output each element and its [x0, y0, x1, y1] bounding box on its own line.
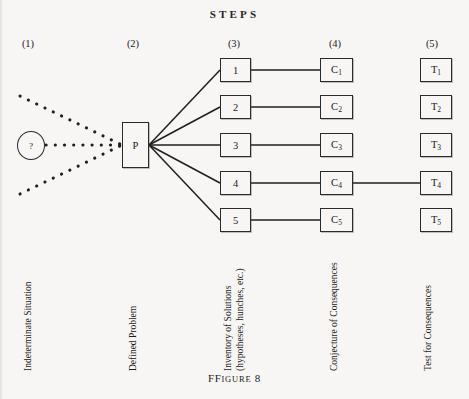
node-label-solution-5: 5	[233, 215, 238, 226]
node-test-2[interactable]: T2	[420, 95, 452, 119]
stage-label-3-line2: (hypotheses, hunches, etc.)	[235, 268, 246, 371]
figure-caption-text: FIGURE	[215, 372, 252, 384]
figure-caption-number: 8	[255, 372, 261, 384]
node-label-solution-4: 4	[233, 178, 238, 189]
node-label-consequence-3: C3	[331, 139, 342, 152]
node-label-test-3: T3	[431, 139, 441, 152]
node-label-solution-1: 1	[233, 65, 238, 76]
figure-caption-word: F	[208, 372, 215, 384]
solution-consequence-lines	[251, 70, 320, 220]
fan-line-2	[149, 107, 220, 145]
node-consequence-1[interactable]: C1	[320, 58, 353, 82]
node-solution-5[interactable]: 5	[220, 208, 251, 232]
fan-line-1	[149, 70, 220, 145]
fan-lines-group	[149, 70, 220, 220]
node-label-test-2: T2	[431, 101, 441, 114]
node-label-solution-3: 3	[233, 140, 238, 151]
stage-label-4: Conjecture of Consequences	[329, 262, 340, 371]
node-label-consequence-2: C2	[331, 101, 342, 114]
stage-label-5: Test for Consequences	[423, 285, 434, 371]
node-label-test-5: T5	[431, 214, 441, 227]
node-label-test-4: T4	[431, 177, 441, 190]
node-consequence-3[interactable]: C3	[320, 133, 353, 157]
node-solution-4[interactable]: 4	[220, 171, 251, 195]
stage-label-3-line1: Inventory of Solutions	[223, 286, 234, 372]
stage-label-2: Defined Problem	[128, 306, 139, 371]
fan-line-4	[149, 145, 220, 183]
node-label-problem: P	[133, 140, 139, 151]
node-label-solution-2: 2	[233, 102, 238, 113]
figure-caption: FFIGURE 8	[0, 372, 469, 384]
node-test-3[interactable]: T3	[420, 133, 452, 157]
node-consequence-5[interactable]: C5	[320, 208, 353, 232]
node-label-consequence-5: C5	[331, 214, 342, 227]
node-solution-3[interactable]: 3	[220, 133, 251, 157]
node-indeterminate-situation[interactable]: ?	[17, 131, 45, 160]
node-label-consequence-1: C1	[331, 64, 342, 77]
node-solution-1[interactable]: 1	[220, 58, 251, 82]
node-label-consequence-4: C4	[331, 177, 342, 190]
stage-label-1: Indeterminate Situation	[23, 282, 34, 371]
node-test-5[interactable]: T5	[420, 208, 452, 232]
node-test-4[interactable]: T4	[420, 171, 452, 195]
node-test-1[interactable]: T1	[420, 58, 452, 82]
fan-line-5	[149, 145, 220, 220]
node-solution-2[interactable]: 2	[220, 95, 251, 119]
figure-page: STEPS (1) (2) (3) (4) (5)	[0, 0, 469, 399]
node-label-test-1: T1	[431, 64, 441, 77]
node-consequence-4[interactable]: C4	[320, 171, 353, 195]
node-consequence-2[interactable]: C2	[320, 95, 353, 119]
node-label-question: ?	[29, 141, 33, 151]
node-defined-problem[interactable]: P	[122, 122, 149, 168]
